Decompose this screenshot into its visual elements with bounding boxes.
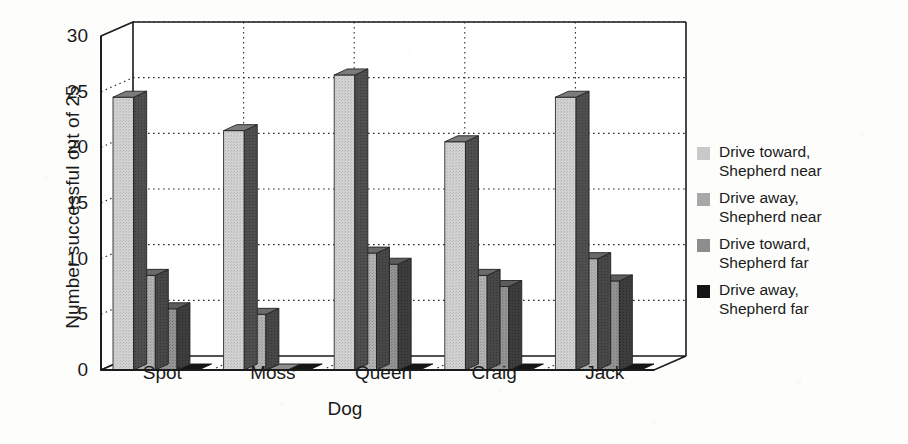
- bar-side-face: [576, 91, 589, 370]
- chart-legend: Drive toward, Shepherd nearDrive away, S…: [697, 143, 902, 327]
- bar-side-face: [377, 247, 390, 370]
- bar: [445, 136, 479, 370]
- legend-swatch-icon: [697, 147, 710, 160]
- bar: [224, 125, 258, 370]
- y-axis-title: Number successful out of 25: [62, 42, 84, 372]
- bar-side-face: [619, 275, 632, 370]
- bar-front-face: [334, 75, 355, 370]
- legend-swatch-icon: [697, 239, 710, 252]
- x-tick-label-craig: Craig: [439, 362, 549, 384]
- bar-side-face: [155, 269, 168, 370]
- legend-entry: Drive toward, Shepherd near: [697, 143, 902, 180]
- legend-entry: Drive away, Shepherd near: [697, 189, 902, 226]
- bar-front-face: [555, 97, 576, 370]
- legend-label: Drive away, Shepherd near: [719, 189, 822, 226]
- bar-side-face: [398, 258, 411, 370]
- bar-side-face: [266, 308, 279, 370]
- legend-entry: Drive toward, Shepherd far: [697, 235, 902, 272]
- bar-side-face: [177, 303, 190, 370]
- bar: [113, 91, 147, 370]
- legend-swatch-icon: [697, 285, 710, 298]
- bar-front-face: [113, 97, 134, 370]
- legend-label: Drive toward, Shepherd near: [719, 143, 822, 180]
- x-axis-title: Dog: [0, 398, 690, 420]
- bar-side-face: [487, 269, 500, 370]
- x-tick-label-jack: Jack: [550, 362, 660, 384]
- bar-side-face: [598, 253, 611, 370]
- legend-swatch-icon: [697, 193, 710, 206]
- legend-label: Drive toward, Shepherd far: [719, 235, 810, 272]
- x-tick-label-moss: Moss: [218, 362, 328, 384]
- legend-entry: Drive away, Shepherd far: [697, 281, 902, 318]
- bar-side-face: [355, 69, 368, 370]
- bar-side-face: [134, 91, 147, 370]
- legend-label: Drive away, Shepherd far: [719, 281, 809, 318]
- chart-screenshot: 051015202530 SpotMossQueenCraigJack Numb…: [0, 0, 908, 444]
- bar: [334, 69, 368, 370]
- x-tick-label-queen: Queen: [329, 362, 439, 384]
- x-tick-label-spot: Spot: [107, 362, 217, 384]
- bar-side-face: [509, 281, 522, 371]
- bar-side-face: [244, 125, 257, 370]
- bar-front-face: [224, 131, 245, 370]
- bar-side-face: [465, 136, 478, 370]
- bar-front-face: [445, 142, 466, 370]
- bar: [555, 91, 589, 370]
